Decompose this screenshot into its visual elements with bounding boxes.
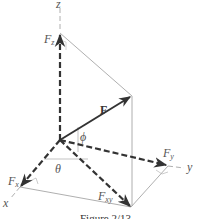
fy-label: Fy — [163, 147, 174, 163]
f-vector — [60, 97, 130, 140]
phi-label: ϕ — [80, 131, 86, 143]
fx-label: Fx — [8, 175, 19, 191]
y-axis — [168, 166, 184, 168]
f-label: F — [100, 104, 107, 116]
theta-label: θ — [55, 163, 61, 175]
construction-line-top — [60, 33, 132, 96]
fxy-label: Fxy — [98, 190, 112, 206]
y-axis-label: y — [187, 161, 192, 173]
right-angle-mark-fy — [156, 170, 168, 174]
fy-vector — [60, 140, 166, 165]
fz-label: Fz — [44, 33, 54, 49]
construction-line-fy-fxy — [131, 166, 168, 207]
z-axis-label: z — [56, 0, 61, 10]
figure-caption: Figure 2/13 — [80, 212, 131, 219]
x-axis-label: x — [3, 197, 8, 209]
right-angle-mark-fx — [28, 178, 38, 184]
